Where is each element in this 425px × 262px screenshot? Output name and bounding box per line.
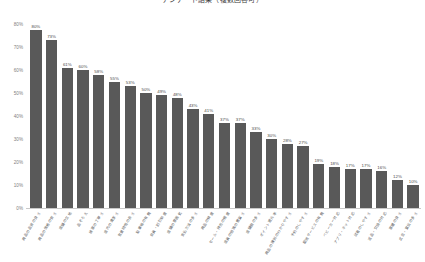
bar-rect (156, 95, 167, 208)
bar-value-label: 27% (299, 140, 308, 145)
x-axis-tick-label: 予約のしやすさ (291, 211, 309, 238)
bar-rect (266, 139, 277, 208)
bar-value-label: 18% (330, 161, 339, 166)
bar-value-label: 33% (252, 126, 261, 131)
bar-value-label: 17% (362, 163, 371, 168)
bar-value-label: 37% (220, 117, 229, 122)
bar-rect (172, 98, 183, 208)
x-axis-tick-label: 店舗の立地 (59, 211, 73, 231)
x-axis-tick-label: 商品の鮮度 (201, 211, 215, 231)
bar: 27% (297, 24, 308, 208)
bar: 58% (93, 24, 104, 208)
bar: 43% (187, 24, 198, 208)
bar-rect (407, 185, 418, 208)
bar-rect (203, 114, 214, 208)
x-axis-tick-label: 店舗数の多さ (246, 211, 262, 234)
bar-rect (219, 123, 230, 208)
chart-title: アンケート結果（複数回答可） (0, 0, 425, 4)
bar-rect (345, 169, 356, 208)
bar-rect (297, 146, 308, 208)
bar: 19% (313, 24, 324, 208)
bar: 16% (376, 24, 387, 208)
bar-rect (125, 86, 136, 208)
bar-rect (77, 70, 88, 208)
x-axis: 商品の品質の良さ商品の価格の安さ店舗の立地品ぞろえ接客の丁寧さ店内の清潔さ営業時… (28, 209, 421, 262)
x-axis-tick-label: 駐車場の有無 (136, 211, 152, 234)
bar: 55% (109, 24, 120, 208)
x-axis-tick-label: 返品・交換の対応 (367, 211, 387, 241)
x-axis-tick-label: 会員・割引制度 (149, 211, 167, 238)
bar: 41% (203, 24, 214, 208)
bar-rect (250, 132, 261, 208)
bar: 30% (266, 24, 277, 208)
bar-value-label: 28% (283, 138, 292, 143)
bar-value-label: 37% (236, 117, 245, 122)
x-axis-tick-label: 広告・宣伝の多さ (399, 211, 419, 241)
bar-value-label: 73% (47, 34, 56, 39)
bar: 60% (77, 24, 88, 208)
bar-value-label: 80% (31, 24, 40, 29)
bar-rect (360, 169, 371, 208)
bar-rect (46, 40, 57, 208)
bar: 50% (140, 24, 151, 208)
bar-value-label: 53% (126, 80, 135, 85)
bar-chart-figure: アンケート結果（複数回答可） 0%10%20%30%40%50%60%70%80… (0, 0, 425, 262)
bar-rect (140, 93, 151, 208)
y-axis: 0%10%20%30%40%50%60%70%80% (0, 24, 26, 208)
bar: 49% (156, 24, 167, 208)
bar-rect (329, 167, 340, 208)
bar-rect (62, 68, 73, 208)
y-axis-tick-label: 20% (0, 160, 23, 165)
bar-value-label: 61% (63, 62, 72, 67)
x-axis-tick-label: 店舗の雰囲気 (167, 211, 183, 234)
bar-value-label: 10% (409, 179, 418, 184)
bar: 73% (46, 24, 57, 208)
x-axis-tick-label: 接客の丁寧さ (88, 211, 104, 234)
bar-value-label: 58% (94, 69, 103, 74)
bar-rect (282, 144, 293, 208)
bar-value-label: 60% (79, 64, 88, 69)
bar-rect (392, 180, 403, 208)
y-axis-tick-label: 60% (0, 68, 23, 73)
x-axis-tick-label: 商品の価格の安さ (37, 211, 57, 241)
bar-value-label: 50% (141, 87, 150, 92)
bar: 17% (345, 24, 356, 208)
bar-rect (187, 109, 198, 208)
y-axis-tick-label: 40% (0, 114, 23, 119)
bar: 37% (235, 24, 246, 208)
bar-rect (376, 171, 387, 208)
bar: 61% (62, 24, 73, 208)
bar: 33% (250, 24, 261, 208)
x-axis-tick-label: 試着のしやすさ (354, 211, 372, 238)
bar-value-label: 30% (267, 133, 276, 138)
x-axis-tick-label: 品ぞろえ (77, 211, 89, 227)
bar: 17% (360, 24, 371, 208)
y-axis-tick-label: 80% (0, 22, 23, 27)
bar: 12% (392, 24, 403, 208)
y-axis-tick-label: 30% (0, 137, 23, 142)
x-axis-tick-label: 支払方法の多さ (181, 211, 199, 238)
bar-value-label: 17% (346, 163, 355, 168)
bar-value-label: 12% (393, 174, 402, 179)
bar: 53% (125, 24, 136, 208)
bar-value-label: 16% (377, 165, 386, 170)
plot-area: 80%73%61%60%58%55%53%50%49%48%43%41%37%3… (28, 24, 421, 208)
y-axis-tick-label: 10% (0, 183, 23, 188)
bar: 28% (282, 24, 293, 208)
y-axis-tick-label: 50% (0, 91, 23, 96)
bar-rect (109, 82, 120, 209)
y-axis-tick-label: 0% (0, 206, 23, 211)
bar-value-label: 43% (189, 103, 198, 108)
bar-rect (30, 30, 41, 208)
bar: 37% (219, 24, 230, 208)
x-axis-tick-label: 店内の清潔さ (104, 211, 120, 234)
bar-value-label: 19% (314, 158, 323, 163)
bar-value-label: 41% (204, 108, 213, 113)
bar-rect (235, 123, 246, 208)
y-axis-tick-label: 70% (0, 45, 23, 50)
x-axis-tick-label: 営業時間の長さ (118, 211, 136, 238)
x-axis-tick-label: 客層の良さ (389, 211, 403, 231)
bar: 48% (172, 24, 183, 208)
bar-rect (93, 75, 104, 208)
bar-value-label: 49% (157, 89, 166, 94)
